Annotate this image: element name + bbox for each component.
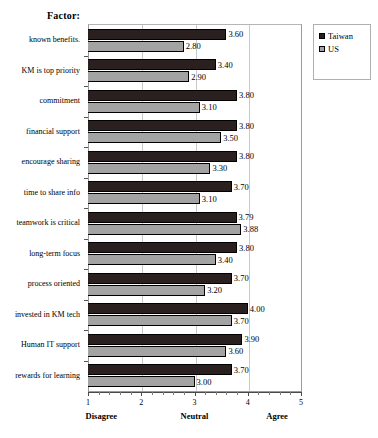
x-tick-minor: [109, 392, 110, 395]
bar-taiwan: [88, 90, 237, 101]
bar-us: [88, 132, 221, 143]
legend-label: US: [328, 45, 339, 54]
bar-value-label: 3.10: [202, 103, 217, 112]
bar-value-label: 3.70: [234, 274, 249, 283]
bar-value-label: 3.20: [207, 286, 222, 295]
bar-taiwan: [88, 151, 237, 162]
legend-swatch-icon: [319, 33, 325, 39]
bar-taiwan: [88, 242, 237, 253]
bar-value-label: 3.80: [239, 122, 254, 131]
category-label: rewards for learning: [15, 372, 80, 380]
category-label: teamwork is critical: [16, 219, 80, 227]
bar-value-label: 3.00: [197, 378, 212, 387]
x-tick-minor: [163, 392, 164, 395]
bar-us: [88, 315, 232, 326]
x-tick-minor: [131, 392, 132, 395]
category-tick: [84, 178, 88, 179]
category-tick: [84, 117, 88, 118]
legend-item: US: [319, 45, 370, 54]
category-label: financial support: [26, 128, 80, 136]
x-tick-label: 3: [193, 399, 197, 407]
bar-value-label: 3.80: [239, 91, 254, 100]
bar-us: [88, 346, 226, 357]
x-tick-minor: [226, 392, 227, 395]
x-tick-label: 4: [246, 399, 250, 407]
x-tick-minor: [120, 392, 121, 395]
category-label: invested in KM tech: [15, 311, 80, 319]
scale-anchor-label: Agree: [266, 412, 288, 421]
x-tick-major: [301, 392, 302, 396]
bar-us: [88, 41, 184, 52]
category-tick: [84, 361, 88, 362]
category-label: commitment: [40, 97, 80, 105]
bar-us: [88, 102, 200, 113]
x-tick-minor: [290, 392, 291, 395]
bar-taiwan: [88, 29, 226, 40]
bar-value-label: 3.30: [212, 164, 227, 173]
category-tick: [84, 269, 88, 270]
category-tick: [84, 239, 88, 240]
bar-us: [88, 376, 195, 387]
bar-value-label: 3.70: [234, 366, 249, 375]
category-label: KM is top priority: [22, 67, 80, 75]
legend-label: Taiwan: [328, 32, 353, 41]
bar-value-label: 3.60: [228, 347, 243, 356]
x-tick-minor: [99, 392, 100, 395]
bar-us: [88, 193, 200, 204]
bar-value-label: 4.00: [250, 305, 265, 314]
bar-value-label: 3.50: [223, 134, 238, 143]
bar-value-label: 3.79: [239, 213, 254, 222]
legend-item: Taiwan: [319, 32, 370, 41]
bar-taiwan: [88, 364, 232, 375]
bar-value-label: 2.80: [186, 42, 201, 51]
category-tick: [84, 56, 88, 57]
bar-taiwan: [88, 273, 232, 284]
scale-anchor-label: Neutral: [181, 412, 209, 421]
category-axis-labels: known benefits.KM is top prioritycommitm…: [0, 25, 84, 391]
x-tick-minor: [184, 392, 185, 395]
x-tick-major: [88, 392, 89, 396]
x-tick-major: [248, 392, 249, 396]
x-tick-minor: [258, 392, 259, 395]
bar-taiwan: [88, 303, 248, 314]
category-tick: [84, 208, 88, 209]
bar-value-label: 3.88: [243, 225, 258, 234]
legend-swatch-icon: [319, 46, 325, 52]
bar-value-label: 3.40: [218, 256, 233, 265]
category-tick: [84, 330, 88, 331]
x-tick-minor: [152, 392, 153, 395]
x-tick-minor: [269, 392, 270, 395]
bar-taiwan: [88, 59, 216, 70]
bar-value-label: 3.70: [234, 183, 249, 192]
chart-title: Factor:: [47, 10, 80, 21]
bar-value-label: 3.70: [234, 317, 249, 326]
bar-taiwan: [88, 181, 232, 192]
bar-value-label: 3.90: [244, 335, 259, 344]
bar-value-label: 3.10: [202, 195, 217, 204]
category-label: long-term focus: [29, 250, 80, 258]
bar-value-label: 3.80: [239, 244, 254, 253]
x-tick-major: [195, 392, 196, 396]
x-tick-label: 5: [299, 399, 303, 407]
category-label: Human IT support: [21, 341, 80, 349]
x-tick-minor: [216, 392, 217, 395]
category-label: encourage sharing: [22, 158, 80, 166]
category-tick: [84, 147, 88, 148]
x-tick-label: 1: [86, 399, 90, 407]
x-tick-minor: [280, 392, 281, 395]
x-tick-minor: [205, 392, 206, 395]
bar-us: [88, 71, 189, 82]
category-tick: [84, 86, 88, 87]
category-label: known benefits.: [29, 36, 80, 44]
bar-us: [88, 285, 205, 296]
x-tick-minor: [173, 392, 174, 395]
bar-us: [88, 224, 241, 235]
category-label: time to share info: [24, 189, 80, 197]
x-tick-label: 2: [139, 399, 143, 407]
bar-chart: Factor: known benefits.KM is top priorit…: [0, 0, 378, 438]
category-tick: [84, 300, 88, 301]
bar-value-label: 2.90: [191, 73, 206, 82]
x-tick-major: [141, 392, 142, 396]
bar-us: [88, 254, 216, 265]
bar-taiwan: [88, 334, 242, 345]
